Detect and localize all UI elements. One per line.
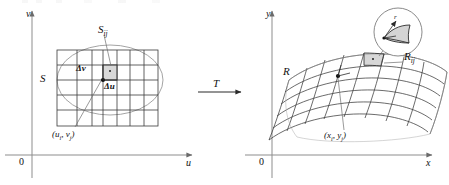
- leader-uivj: [75, 81, 101, 127]
- region-r-label: R: [283, 66, 290, 77]
- subrectangle-sij: [103, 65, 117, 80]
- right-origin-label: 0: [259, 157, 264, 167]
- transform-t-label: T: [213, 78, 219, 89]
- right-axis-y-label: y: [266, 9, 270, 19]
- left-axis-u-label: u: [186, 158, 191, 168]
- corner-point-label: (ui, vj): [52, 130, 74, 141]
- delta-v-label: Δv: [76, 64, 86, 73]
- image-point-label: (xi, yj): [324, 131, 346, 142]
- rij-sample-point: [372, 58, 374, 60]
- subpatch-rij-label: Rij: [404, 51, 415, 65]
- leader-rij: [384, 62, 403, 63]
- image-point-vectors: [338, 65, 350, 76]
- left-origin-label: 0: [19, 157, 24, 167]
- subrectangle-sij-label: Sij: [98, 24, 108, 38]
- delta-u-label: Δu: [104, 82, 115, 91]
- figure-canvas: v 0 u S Sij Δv Δu (ui, vj) T y 0 x R Rij…: [0, 0, 449, 185]
- right-axis-x-label: x: [426, 158, 430, 168]
- left-axis-v-label: v: [26, 9, 30, 19]
- inset-vector-label: r: [394, 14, 397, 21]
- region-s-label: S: [40, 73, 46, 84]
- subpatch-rij: [364, 53, 384, 66]
- sij-sample-point: [109, 70, 111, 72]
- leader-sij: [104, 35, 111, 66]
- region-r-mesh: [269, 53, 447, 140]
- diagram-vector-art: [0, 0, 449, 185]
